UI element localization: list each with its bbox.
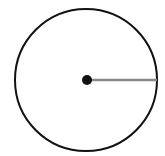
circle-diagram <box>0 0 165 156</box>
center-point <box>82 75 92 85</box>
